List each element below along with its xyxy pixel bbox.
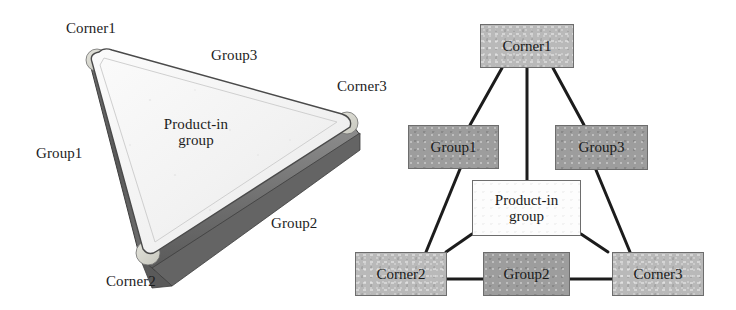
node-product-in-group[interactable]: Product-ingroup — [472, 180, 581, 236]
edge-group3-corner3 — [596, 170, 630, 252]
label-group1: Group1 — [36, 145, 82, 161]
node-group1-label: Group1 — [431, 139, 477, 156]
node-corner2-label: Corner2 — [376, 266, 425, 283]
3d-triangular-block-diagram: Corner1 Group3 Corner3 Group1 Group2 Cor… — [0, 0, 368, 310]
edge-corner1-group3 — [553, 68, 584, 125]
node-corner1-label: Corner1 — [502, 38, 551, 55]
label-corner1: Corner1 — [66, 20, 116, 36]
node-corner2[interactable]: Corner2 — [355, 252, 447, 296]
label-product-in-group: Product-ingroup — [148, 116, 244, 148]
label-corner2: Corner2 — [106, 273, 156, 289]
label-group2: Group2 — [271, 215, 317, 231]
label-group3: Group3 — [211, 47, 257, 63]
node-product-in-group-label: Product-ingroup — [495, 192, 558, 225]
edge-group1-corner2 — [426, 169, 460, 252]
edge-pig-corner3 — [581, 234, 608, 252]
edge-corner1-group1 — [470, 68, 502, 125]
node-group3[interactable]: Group3 — [555, 125, 648, 170]
node-group2[interactable]: Group2 — [483, 252, 570, 296]
node-group1[interactable]: Group1 — [408, 125, 499, 169]
node-group2-label: Group2 — [504, 266, 550, 283]
node-corner1[interactable]: Corner1 — [480, 24, 574, 68]
edge-pig-corner2 — [446, 234, 472, 252]
node-link-diagram: Corner1 Group1 Group3 Product-ingroup Co… — [368, 0, 736, 310]
figure-canvas: Corner1 Group3 Corner3 Group1 Group2 Cor… — [0, 0, 736, 310]
node-corner3[interactable]: Corner3 — [612, 252, 704, 296]
node-corner3-label: Corner3 — [633, 266, 682, 283]
node-group3-label: Group3 — [579, 139, 625, 156]
